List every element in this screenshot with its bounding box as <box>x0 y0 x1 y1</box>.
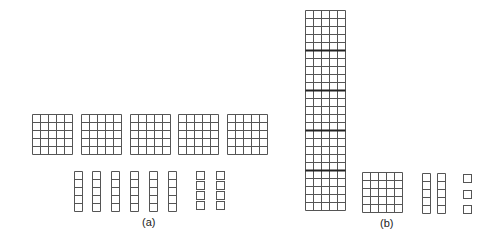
rod-block <box>112 172 120 212</box>
unit-cube <box>464 191 472 199</box>
rod-block <box>93 172 101 212</box>
flat-block-5x5 <box>228 115 268 155</box>
rod-block <box>438 174 446 214</box>
hundreds-column-block <box>306 11 346 211</box>
rod-block <box>150 172 158 212</box>
rod-block <box>75 172 83 212</box>
base-ten-blocks-figure: (a) (b) <box>0 0 500 246</box>
unit-cube <box>217 192 225 200</box>
rod-block <box>423 174 431 214</box>
flat-block-5x5 <box>363 173 403 213</box>
flat-block-5x5 <box>179 115 219 155</box>
unit-cube <box>217 172 225 180</box>
unit-cube <box>197 182 205 190</box>
flat-block-5x5 <box>82 115 122 155</box>
unit-cube <box>197 192 205 200</box>
rod-block <box>169 172 177 212</box>
unit-cube <box>217 202 225 210</box>
rod-block <box>131 172 139 212</box>
flat-block-5x5 <box>131 115 171 155</box>
blocks-drawing <box>0 0 500 246</box>
unit-cube <box>464 206 472 214</box>
unit-cube <box>464 175 472 183</box>
panel-a-label: (a) <box>142 216 155 228</box>
panel-b-label: (b) <box>380 217 393 229</box>
unit-cube <box>197 172 205 180</box>
unit-cube <box>217 182 225 190</box>
unit-cube <box>197 202 205 210</box>
flat-block-5x5 <box>33 115 73 155</box>
